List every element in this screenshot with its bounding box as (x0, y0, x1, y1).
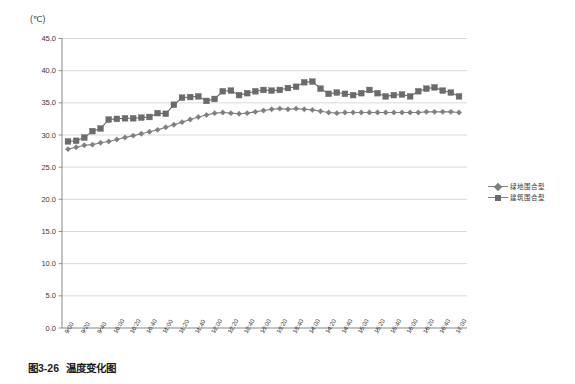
data-point-marker (318, 108, 323, 113)
data-point-marker (285, 107, 290, 112)
data-point-marker (448, 109, 453, 114)
gridlines-group (59, 39, 468, 329)
x-tick-label: 10:00 (112, 317, 126, 334)
data-point-marker (236, 111, 241, 116)
data-point-marker (253, 109, 258, 114)
data-point-marker (261, 87, 267, 93)
data-point-marker (236, 92, 242, 98)
x-tick-label: 14:40 (340, 317, 354, 334)
data-point-marker (456, 110, 461, 115)
y-tick-label: 35.0 (41, 98, 56, 107)
x-tick-label: 12:40 (242, 317, 256, 334)
data-point-marker (212, 110, 217, 115)
data-point-marker (114, 137, 119, 142)
data-series-group (65, 79, 462, 152)
data-point-marker (228, 110, 233, 115)
data-point-marker (98, 126, 104, 132)
x-tick-label: 16:20 (421, 317, 435, 334)
data-point-marker (293, 106, 298, 111)
data-point-marker (122, 115, 128, 121)
data-point-marker (122, 135, 127, 140)
data-point-marker (399, 110, 404, 115)
figure-container: (℃) 0.05.010.015.020.025.030.035.040.045… (0, 0, 575, 384)
data-point-marker (269, 88, 275, 94)
data-point-marker (277, 106, 282, 111)
data-point-marker (90, 128, 96, 134)
y-tick-label: 30.0 (41, 131, 56, 140)
data-point-marker (90, 142, 95, 147)
data-point-marker (342, 91, 348, 97)
x-tick-label: 14:20 (323, 317, 337, 334)
y-tick-label: 0.0 (46, 324, 56, 333)
data-point-marker (350, 110, 355, 115)
data-point-marker (81, 135, 87, 141)
data-point-marker (334, 90, 340, 96)
x-tick-label: 11:20 (177, 318, 191, 335)
data-point-marker (147, 129, 152, 134)
legend-label: 建筑围合型 (508, 192, 545, 203)
data-point-marker (204, 112, 209, 117)
data-point-marker (82, 143, 87, 148)
data-point-marker (407, 110, 412, 115)
data-point-marker (196, 114, 201, 119)
data-point-marker (391, 92, 397, 98)
x-tick-label: 13:40 (291, 317, 305, 334)
data-point-marker (138, 115, 144, 121)
data-point-marker (155, 127, 160, 132)
x-tick-label: 15:00 (356, 317, 370, 334)
y-tick-labels-group: 0.05.010.015.020.025.030.035.040.045.0 (41, 34, 56, 333)
data-point-marker (228, 88, 234, 94)
data-point-marker (334, 110, 339, 115)
series-green-enclosure (65, 106, 461, 152)
data-point-marker (171, 122, 176, 127)
data-point-marker (163, 111, 169, 117)
data-point-marker (366, 87, 372, 93)
data-point-marker (302, 107, 307, 112)
data-point-marker (424, 109, 429, 114)
data-point-marker (358, 90, 364, 96)
x-tick-labels-group: 9:009:209:4010:0010:2010:4011:0011:2011:… (63, 317, 468, 334)
data-point-marker (448, 90, 454, 96)
x-tick-label: 16:00 (405, 317, 419, 334)
data-point-marker (269, 107, 274, 112)
data-point-marker (415, 88, 421, 94)
data-point-marker (318, 86, 324, 92)
data-point-marker (342, 110, 347, 115)
data-point-marker (375, 90, 381, 96)
data-point-marker (245, 110, 250, 115)
data-point-marker (220, 88, 226, 94)
diamond-marker-icon (488, 181, 508, 192)
data-point-marker (391, 110, 396, 115)
legend-item-building-enclosure[interactable]: 建筑围合型 (488, 192, 545, 203)
x-tick-label: 13:20 (275, 317, 289, 334)
caption-number: 图3-26 (28, 362, 59, 374)
data-point-marker (179, 95, 185, 101)
x-tick-label: 14:00 (307, 317, 321, 334)
data-point-marker (440, 88, 446, 94)
legend-item-green-enclosure[interactable]: 绿地围合型 (488, 181, 545, 192)
chart-legend: 绿地围合型 建筑围合型 (488, 181, 545, 203)
square-marker-icon (488, 192, 508, 203)
data-point-marker (326, 91, 332, 97)
x-tick-label: 10:20 (128, 317, 142, 334)
data-point-marker (375, 110, 380, 115)
data-point-marker (98, 140, 103, 145)
caption-title: 温度变化图 (66, 362, 116, 374)
data-point-marker (195, 94, 201, 100)
data-point-marker (114, 116, 120, 122)
data-point-marker (326, 110, 331, 115)
data-point-marker (65, 139, 71, 145)
y-tick-label: 45.0 (41, 34, 56, 43)
data-point-marker (106, 139, 111, 144)
data-point-marker (432, 109, 437, 114)
data-point-marker (310, 107, 315, 112)
data-point-marker (359, 110, 364, 115)
data-point-marker (106, 117, 112, 123)
y-tick-label: 25.0 (41, 163, 56, 172)
data-point-marker (252, 88, 258, 94)
data-point-marker (73, 138, 79, 144)
figure-caption: 图3-26温度变化图 (28, 360, 116, 375)
data-point-marker (220, 110, 225, 115)
data-point-marker (277, 87, 283, 93)
data-point-marker (456, 94, 462, 100)
